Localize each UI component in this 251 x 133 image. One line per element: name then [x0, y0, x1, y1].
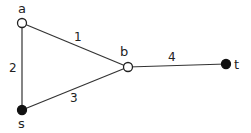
node-label-s: s	[18, 116, 25, 131]
node-label-a: a	[18, 1, 26, 16]
edge-weight-a-s: 2	[9, 61, 17, 75]
node-label-t: t	[234, 57, 239, 72]
edge-weight-s-b: 3	[70, 91, 78, 105]
node-a	[18, 19, 27, 28]
edge-weight-a-b: 1	[74, 30, 82, 44]
node-label-b: b	[120, 44, 128, 59]
edge-b-t	[128, 64, 226, 67]
edge-weight-b-t: 4	[168, 50, 176, 64]
node-b	[124, 63, 133, 72]
node-t	[222, 60, 231, 69]
graph-diagram: 1 2 3 4 a b s t	[0, 0, 251, 133]
node-s	[18, 106, 27, 115]
